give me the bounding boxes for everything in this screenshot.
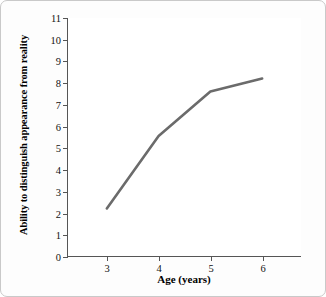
x-tick-mark <box>211 256 212 261</box>
x-tick-mark <box>107 256 108 261</box>
x-tick-mark <box>263 256 264 261</box>
line-series-layer <box>68 18 301 256</box>
y-tick-label: 9 <box>56 56 61 67</box>
y-tick-label: 2 <box>56 208 61 219</box>
y-tick-label: 0 <box>56 252 61 263</box>
y-tick-label: 11 <box>51 13 61 24</box>
y-tick-label: 10 <box>51 34 62 45</box>
y-tick-label: 3 <box>56 186 61 197</box>
y-tick-label: 6 <box>56 121 61 132</box>
x-tick-mark <box>159 256 160 261</box>
plot-area: 01234567891011 3456 <box>67 18 301 257</box>
y-tick-label: 5 <box>56 143 61 154</box>
y-tick-label: 4 <box>56 165 61 176</box>
y-tick-label: 1 <box>56 230 61 241</box>
y-tick-label: 7 <box>56 99 61 110</box>
y-tick-label: 8 <box>56 78 61 89</box>
y-axis-title: Ability to distinguish appearance from r… <box>15 10 33 260</box>
x-axis-title: Age (years) <box>67 273 301 285</box>
line-series-path <box>107 79 262 209</box>
chart-figure-card: Ability to distinguish appearance from r… <box>0 0 326 297</box>
y-tick-mark <box>63 257 68 258</box>
